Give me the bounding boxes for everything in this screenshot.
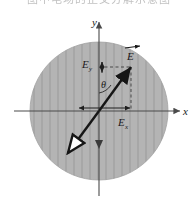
label-x-axis: x — [182, 105, 188, 117]
label-field-vector: E — [126, 50, 134, 62]
vector-hat-arrow — [125, 46, 140, 48]
label-y-axis: y — [91, 16, 97, 28]
label-Ey-main: E — [81, 58, 89, 70]
label-angle-theta: θ — [101, 79, 106, 90]
figure-page: 图中电场的正交分解示意图 — [0, 0, 196, 202]
label-Ex-main: E — [117, 116, 125, 128]
vector-decomposition-figure: E E y E x θ y x — [0, 0, 196, 202]
